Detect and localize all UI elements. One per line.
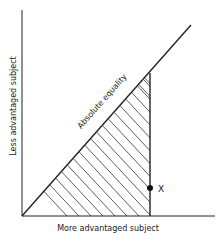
equality-diagram: X Absolute equality More advantaged subj… bbox=[0, 0, 224, 241]
diagonal-label: Absolute equality bbox=[76, 72, 129, 130]
equality-line bbox=[22, 25, 191, 216]
point-x-label: X bbox=[158, 184, 164, 194]
x-axis-label: More advantaged subject bbox=[57, 224, 159, 233]
y-axis-label: Less advantaged subject bbox=[9, 56, 18, 155]
point-x-marker bbox=[147, 185, 153, 191]
